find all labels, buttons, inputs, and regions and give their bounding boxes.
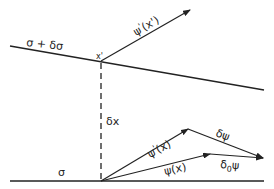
delta-x-label: δx — [106, 115, 120, 128]
lower-surface-label: σ — [58, 166, 65, 179]
svg-text:δψ: δψ — [214, 127, 232, 144]
delta-psi-label: δψ — [214, 127, 232, 144]
variation-diagram: σ + δσ σ x' δx ψ'(x') ψ'(x) ψ(x) δψ δ0ψ — [0, 0, 274, 189]
delta0-psi-label: δ0ψ — [220, 158, 240, 174]
svg-text:ψ(x): ψ(x) — [163, 161, 188, 178]
x-prime-label: x' — [96, 52, 103, 61]
svg-text:δ0ψ: δ0ψ — [220, 158, 240, 174]
psi-prime-x-prime-arrow — [101, 10, 190, 61]
psi-x-label: ψ(x) — [163, 161, 188, 178]
upper-surface-line — [10, 46, 264, 90]
